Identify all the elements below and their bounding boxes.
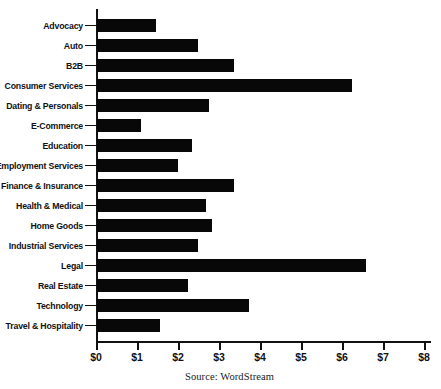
bar	[97, 219, 212, 232]
bar-row: Travel & Hospitality	[0, 316, 441, 336]
category-label: Finance & Insurance	[0, 178, 83, 194]
y-axis-tick	[85, 165, 96, 167]
bar-row: Auto	[0, 36, 441, 56]
bar-row: Health & Medical	[0, 196, 441, 216]
bar	[97, 239, 198, 252]
bar-row: Finance & Insurance	[0, 176, 441, 196]
x-axis-tick	[219, 343, 221, 350]
y-axis-tick	[85, 265, 96, 267]
x-axis-label: $5	[281, 351, 321, 363]
category-label: Legal	[0, 258, 83, 274]
category-label: Travel & Hospitality	[0, 318, 83, 334]
category-label: Technology	[0, 298, 83, 314]
bar-row: Employment Services	[0, 156, 441, 176]
bar	[97, 179, 234, 192]
bar-row: E-Commerce	[0, 116, 441, 136]
x-axis-tick	[137, 343, 139, 350]
x-axis-tick	[178, 343, 180, 350]
y-axis-tick	[85, 245, 96, 247]
x-axis-tick	[383, 343, 385, 350]
x-axis-label: $6	[322, 351, 362, 363]
bar	[97, 59, 234, 72]
bar-row: B2B	[0, 56, 441, 76]
bar-row: Legal	[0, 256, 441, 276]
bar	[97, 259, 366, 272]
category-label: Consumer Services	[0, 78, 83, 94]
x-axis-label: $3	[199, 351, 239, 363]
category-label: Auto	[0, 38, 83, 54]
y-axis-tick	[85, 305, 96, 307]
bar-row: Advocacy	[0, 16, 441, 36]
category-label: B2B	[0, 58, 83, 74]
x-axis-label: $2	[158, 351, 198, 363]
y-axis-tick	[85, 205, 96, 207]
x-axis-tick	[342, 343, 344, 350]
y-axis-tick	[85, 185, 96, 187]
x-axis-tick	[424, 343, 426, 350]
category-label: Home Goods	[0, 218, 83, 234]
x-axis-tick	[301, 343, 303, 350]
y-axis-tick	[85, 25, 96, 27]
y-axis-tick	[85, 45, 96, 47]
source-caption: Source: WordStream	[0, 371, 441, 382]
bar-chart: AdvocacyAutoB2BConsumer ServicesDating &…	[0, 0, 441, 389]
bar-row: Technology	[0, 296, 441, 316]
bar-row: Home Goods	[0, 216, 441, 236]
bar-row: Real Estate	[0, 276, 441, 296]
y-axis-tick	[85, 285, 96, 287]
bar	[97, 19, 156, 32]
bar	[97, 199, 206, 212]
y-axis-tick	[85, 105, 96, 107]
bar	[97, 299, 249, 312]
x-axis-line	[96, 341, 431, 343]
category-label: Real Estate	[0, 278, 83, 294]
x-axis-label: $4	[240, 351, 280, 363]
y-axis-tick	[85, 65, 96, 67]
bar	[97, 39, 198, 52]
bar-row: Dating & Personals	[0, 96, 441, 116]
y-axis-tick	[85, 325, 96, 327]
y-axis-tick	[85, 85, 96, 87]
x-axis-label: $7	[363, 351, 403, 363]
category-label: Health & Medical	[0, 198, 83, 214]
bar-row: Consumer Services	[0, 76, 441, 96]
category-label: Advocacy	[0, 18, 83, 34]
bar	[97, 119, 141, 132]
bar-row: Industrial Services	[0, 236, 441, 256]
x-axis-label: $0	[76, 351, 116, 363]
category-label: E-Commerce	[0, 118, 83, 134]
bar	[97, 79, 352, 92]
bar	[97, 99, 209, 112]
x-axis-tick	[96, 343, 98, 350]
bar	[97, 159, 178, 172]
bar-row: Education	[0, 136, 441, 156]
category-label: Industrial Services	[0, 238, 83, 254]
bar	[97, 279, 188, 292]
y-axis-tick	[85, 145, 96, 147]
category-label: Dating & Personals	[0, 98, 83, 114]
category-label: Education	[0, 138, 83, 154]
x-axis-label: $8	[404, 351, 441, 363]
y-axis-tick	[85, 125, 96, 127]
x-axis-tick	[260, 343, 262, 350]
x-axis-label: $1	[117, 351, 157, 363]
bar	[97, 139, 192, 152]
y-axis-tick	[85, 225, 96, 227]
bar	[97, 319, 160, 332]
category-label: Employment Services	[0, 158, 83, 174]
